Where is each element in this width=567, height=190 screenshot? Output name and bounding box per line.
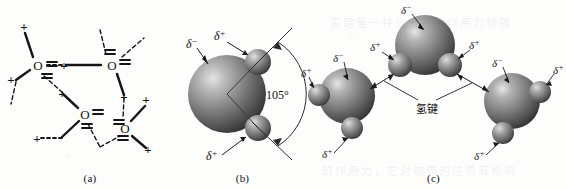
hydrogen-sphere-right [438, 53, 462, 77]
lone-pair-mark [93, 110, 103, 114]
panel-c-caption: (c) [300, 172, 567, 184]
charge-label-right-oxygen: δ− [492, 56, 503, 69]
hydrogen-sphere-lower [341, 117, 363, 139]
panel-a-diagram: O O O O + + + + + + + + [0, 0, 180, 190]
bond-angle-label: 105° [266, 88, 289, 102]
charge-label-delta-negative-oxygen: δ− [186, 36, 198, 51]
charge-label-left-hydrogen-left: δ+ [301, 66, 312, 79]
atom-label-o: O [80, 107, 89, 122]
hydrogen-bond-left-arrowhead-b [388, 74, 394, 81]
bond-covalent [16, 70, 30, 80]
charge-label-delta-positive-hydrogen-upper: δ+ [214, 28, 226, 43]
charge-arrow-top-hydrogen-right [458, 53, 464, 59]
lone-pair-mark [105, 50, 115, 54]
charge-label-top-hydrogen-left: δ+ [370, 40, 381, 53]
bond-covalent [25, 33, 33, 57]
bond-hydrogen [100, 136, 120, 147]
charge-label-right-hydrogen-right: δ+ [553, 63, 564, 76]
hydrogen-mark: + [20, 19, 27, 34]
hydrogen-mark: + [144, 142, 151, 157]
bond-label-leader-left [384, 81, 418, 100]
lone-pair-mark [118, 136, 128, 140]
charge-label-left-oxygen: δ− [333, 51, 344, 64]
charge-label-top-hydrogen-right: δ+ [469, 38, 480, 51]
panel-c-diagram: 氢键 [300, 0, 567, 190]
hydrogen-sphere-left [308, 84, 330, 106]
hydrogen-mark: + [120, 89, 127, 104]
bond-covalent [131, 106, 145, 121]
lone-pair-mark [120, 60, 130, 64]
molecule-top [388, 15, 462, 77]
hydrogen-mark: + [58, 86, 65, 101]
bond-label-leader-right [436, 83, 472, 100]
hydrogen-plus-marks: + + + + + + + + [7, 19, 151, 157]
hydrogen-sphere-lower [492, 122, 514, 144]
panel-c-hydrogen-bonded-water-trimer: 氢键 [300, 0, 567, 190]
molecule-right [484, 73, 551, 144]
oxygen-sphere [484, 73, 540, 129]
atom-label-o: O [107, 58, 116, 73]
charge-label-right-hydrogen-lower: δ+ [474, 149, 485, 162]
hydrogen-mark: + [7, 72, 14, 87]
lone-pair-mark [47, 62, 57, 66]
panel-a-hydrogen-bond-network: O O O O + + + + + + + + (a) [0, 0, 180, 190]
molecule-left [308, 68, 375, 139]
charge-label-top-oxygen: δ− [401, 3, 412, 16]
bond-hydrogen [122, 38, 144, 57]
panel-b-water-molecule-model: 105° δ− δ+ δ+ ( [180, 0, 305, 190]
bond-covalent [62, 121, 79, 137]
atom-label-o: O [120, 121, 129, 136]
charge-label-delta-positive-hydrogen-lower: δ+ [206, 148, 218, 163]
hydrogen-mark: + [33, 131, 40, 146]
hydrogen-mark: + [60, 58, 67, 73]
hydrogen-mark: + [142, 92, 149, 107]
hydrogen-bond-label: 氢键 [416, 102, 438, 115]
panel-a-caption: (a) [0, 172, 180, 184]
charge-label-left-hydrogen-lower: δ+ [322, 147, 333, 160]
panel-b-caption: (b) [180, 172, 305, 184]
charge-arrow-hydrogen-upper [242, 50, 248, 55]
charge-leader-left-hydrogen-lower [334, 138, 348, 153]
water-hydrogen-bond-figure: O O O O + + + + + + + + (a) [0, 0, 567, 190]
panel-b-diagram: 105° δ− δ+ δ+ [180, 0, 305, 190]
lone-pair-mark [82, 124, 92, 128]
atom-label-o: O [33, 58, 42, 73]
hydrogen-bond-right-arrowhead-b [457, 74, 463, 81]
